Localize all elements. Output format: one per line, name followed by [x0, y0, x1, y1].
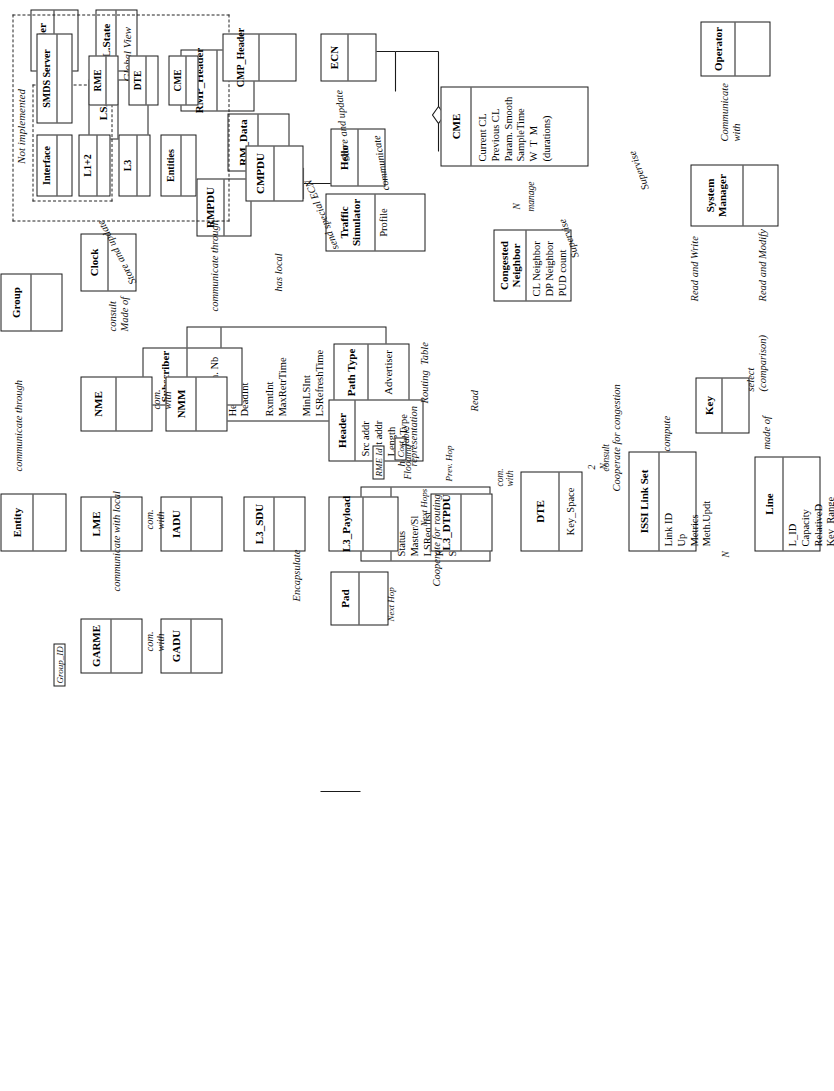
class-nme-attrs: [116, 377, 120, 430]
mult-manage-n: N: [511, 203, 521, 209]
label-made-of-line: made of: [760, 415, 772, 449]
class-group: Group: [0, 273, 62, 331]
class-l3-dtpdu-attrs: [461, 494, 465, 550]
label-cooperate-for-congestion: Cooperate for congestion: [610, 384, 622, 491]
class-cmp-header-name: CMP_Header: [223, 34, 259, 80]
class-l3-sdu-name: L3_SDU: [244, 497, 274, 550]
class-congested-neighbor: Congested Neighbor CL Neighbor DP Neighb…: [493, 229, 571, 301]
class-line-attrs: L_ID Capacity RelativeD Key_Range: [783, 457, 819, 550]
class-gv-cme: CME: [168, 55, 198, 105]
class-dte-attrs: Key_Space: [559, 472, 581, 550]
class-l12: L1+2: [78, 134, 110, 196]
label-group-id: Group_ID: [53, 643, 65, 686]
class-gadu: GADU: [160, 618, 222, 673]
class-smds-server: SMDS Server: [36, 33, 72, 123]
label-rme-id: RME Id: [372, 445, 384, 479]
class-iadu: IADU: [160, 496, 222, 551]
class-gv-dte: DTE: [128, 55, 158, 105]
label-com-with-nme: com. with: [150, 389, 172, 409]
class-garme-attrs: [111, 619, 115, 672]
mult-line-n: N: [720, 551, 730, 557]
mult-key-space-2: 2: [586, 464, 596, 469]
class-garme-name: GARME: [81, 619, 111, 672]
class-pad: Pad: [330, 571, 388, 625]
class-key-attrs: [722, 378, 726, 432]
class-operator: Operator: [700, 21, 770, 76]
class-cmpdu-attrs: [274, 146, 278, 200]
class-entity-attrs: [33, 494, 37, 550]
class-group-attrs: [31, 274, 35, 330]
class-cme-attrs: Current CL Previous CL Param. Smooth Sam…: [471, 87, 587, 165]
class-l3-name: L3: [119, 135, 137, 195]
class-cme-name: CME: [441, 87, 471, 165]
class-dte-name: DTE: [521, 472, 559, 550]
class-l12-name: L1+2: [79, 135, 97, 195]
class-cmpdu-name: CMPDU: [246, 146, 274, 200]
class-cmp-header-attrs: [259, 34, 263, 80]
class-interface-attrs: [57, 135, 71, 195]
class-garme: GARME: [80, 618, 142, 673]
label-routing-table: Routing Table: [418, 342, 430, 403]
label-cooperate-for-routing: Cooperate for routing: [430, 494, 442, 586]
not-implemented-caption: Not implemented: [14, 66, 26, 186]
class-nmm: NMM: [165, 376, 227, 431]
label-com-with-garme: com. with: [143, 631, 165, 651]
class-interface: Interface: [36, 134, 72, 196]
label-read: Read: [468, 389, 480, 411]
class-entities: Entities: [160, 134, 196, 196]
class-l12-attrs: [97, 135, 109, 195]
class-dte: DTE Key_Space: [520, 471, 582, 551]
class-cmpdu: CMPDU: [245, 145, 303, 201]
class-interface-name: Interface: [37, 135, 57, 195]
class-smds-server-name: SMDS Server: [37, 34, 57, 122]
class-l3-payload: L3_Payload: [328, 496, 398, 551]
label-read-and-write: Read and Write: [688, 236, 700, 301]
class-key: Key: [695, 377, 749, 433]
label-prev-hop: Prev. Hop: [443, 445, 453, 481]
class-gv-dte-name: DTE: [129, 56, 146, 104]
class-l3-sdu-attrs: [274, 497, 278, 550]
class-traffic-simulator: Traffic Simulator Profile: [325, 193, 425, 251]
class-issi-link-set-name: ISSI Link Set: [629, 452, 659, 550]
class-issi-link-set-attrs: Link ID Up Metrics Meth.Updt: [659, 452, 695, 550]
label-consult-clock: consult: [106, 301, 118, 331]
class-smds-server-attrs: [57, 34, 71, 122]
class-iadu-attrs: [191, 497, 195, 550]
label-manage: manage: [525, 181, 536, 211]
label-com-with-lme: com. with: [143, 509, 165, 529]
class-entities-name: Entities: [161, 135, 181, 195]
class-path-type-name: Path Type: [334, 344, 368, 400]
class-nme-name: NME: [81, 377, 116, 430]
label-table: Table: [400, 426, 411, 447]
class-cme: CME Current CL Previous CL Param. Smooth…: [440, 86, 588, 166]
class-gv-cme-name: CME: [169, 56, 186, 104]
class-lme-name: LME: [81, 497, 111, 550]
class-pad-name: Pad: [331, 572, 359, 624]
class-clock-name: Clock: [81, 234, 108, 290]
class-ecn: ECN: [320, 33, 376, 81]
class-l3: L3: [118, 134, 150, 196]
class-issi-link-set: ISSI Link Set Link ID Up Metrics Meth.Up…: [628, 451, 696, 551]
diagram-page: Header L.State LSA Hello RMP_Header RM_D…: [0, 0, 834, 1091]
class-l3-attrs: [137, 135, 149, 195]
class-key-name: Key: [696, 378, 722, 432]
class-l3-header-name: Header: [329, 400, 355, 460]
label-next-hop: Next Hop: [385, 587, 395, 621]
class-gv-cme-attrs: [186, 56, 197, 104]
mult-issi-n: N: [598, 463, 608, 469]
class-l3-payload-attrs: [363, 497, 367, 550]
class-system-manager-attrs: [743, 165, 777, 225]
class-congested-neighbor-name: Congested Neighbor: [494, 230, 526, 300]
class-gadu-attrs: [191, 619, 195, 672]
label-communicate-with-operator: Communicate with: [718, 83, 742, 141]
label-com-with-dte: com. with: [495, 468, 515, 486]
class-group-name: Group: [1, 274, 31, 330]
class-gv-rme: RME: [88, 55, 118, 105]
class-nmm-attrs: [196, 377, 200, 430]
class-nme: NME: [80, 376, 152, 431]
class-line-name: Line: [755, 457, 783, 550]
class-system-manager-name: System Manager: [691, 165, 743, 225]
class-ecn-attrs: [348, 34, 352, 80]
class-l3-sdu: L3_SDU: [243, 496, 305, 551]
class-l3-payload-name: L3_Payload: [329, 497, 363, 550]
